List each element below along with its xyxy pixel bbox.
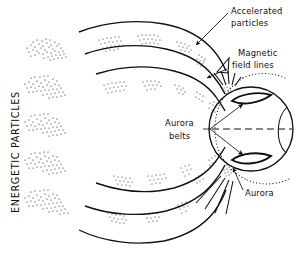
accelerated-particle-cluster-u2a <box>103 81 126 93</box>
earth-limb-arc <box>278 107 287 153</box>
accelerated-particle-cluster-l1a <box>113 175 132 186</box>
accelerated-particles-leader <box>196 13 228 45</box>
energetic-particles-label: ENERGETIC PARTICLES <box>10 91 21 213</box>
earth-globe <box>209 87 293 171</box>
accelerated-particle-cluster-l3b <box>208 155 216 165</box>
field-line-2 <box>85 46 225 94</box>
magnetic-field-line-arcs <box>79 22 226 243</box>
accelerated-particle-cluster-u2c <box>174 84 185 94</box>
northern-aurora-oval <box>232 93 271 103</box>
field-line-3 <box>96 67 225 111</box>
aurora-leader <box>233 168 243 190</box>
accelerated-particles-label-line2: particles <box>231 18 268 28</box>
aurora-belts-label-line2: belts <box>169 131 190 141</box>
accelerated-particle-cluster-u2d <box>195 91 203 101</box>
aurora-formation-diagram: Accelerated particles Magnetic field lin… <box>0 0 303 267</box>
particle-cloud-left-1 <box>26 38 66 60</box>
aurora-label: Aurora <box>245 188 274 198</box>
field-line-4 <box>96 147 225 191</box>
accelerated-particle-cluster-u2b <box>142 80 161 90</box>
particle-cloud-left-2 <box>24 75 65 98</box>
accelerated-particles-label-line1: Accelerated <box>231 6 282 16</box>
accelerated-particle-cluster-cusp-s <box>223 168 231 176</box>
aurora-belts-label-line1: Aurora <box>165 118 194 128</box>
particle-cloud-left-3 <box>24 113 65 136</box>
particle-cloud-left-4 <box>24 151 65 174</box>
diagram-canvas: Accelerated particles Magnetic field lin… <box>0 0 303 267</box>
magnetic-field-lines-leader <box>207 58 229 78</box>
accelerated-particle-cluster-l1b <box>147 173 166 184</box>
magnetic-field-lines-label-line1: Magnetic <box>238 48 278 58</box>
accelerated-particle-cluster-l1c <box>180 164 191 176</box>
southern-aurora-oval <box>232 153 271 163</box>
magnetic-field-lines-label-line2: field lines <box>232 60 274 70</box>
accelerated-particle-cluster-u1b <box>137 34 160 44</box>
accelerated-particle-cluster-u1c <box>176 41 191 52</box>
field-line-6 <box>79 190 226 243</box>
particle-cloud-left-5 <box>24 189 68 214</box>
field-line-5 <box>85 165 225 214</box>
